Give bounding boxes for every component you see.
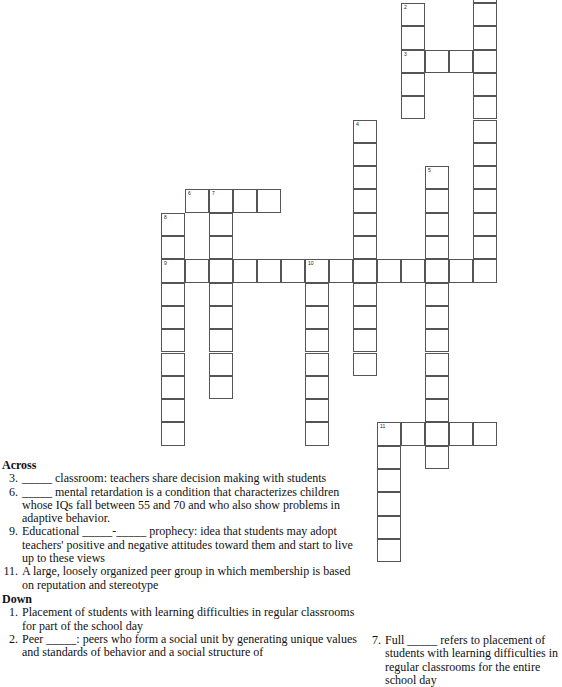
crossword-cell[interactable] (425, 376, 449, 399)
crossword-cell[interactable] (353, 166, 377, 189)
clue-text: Educational _____-_____ prophecy: idea t… (22, 525, 357, 565)
crossword-cell[interactable] (305, 353, 329, 376)
crossword-cell[interactable] (425, 259, 449, 282)
crossword-cell[interactable] (425, 189, 449, 212)
crossword-cell[interactable] (185, 259, 209, 282)
crossword-cell[interactable] (473, 26, 497, 49)
crossword-cell[interactable] (425, 422, 449, 445)
crossword-cell[interactable]: 10 (305, 259, 329, 282)
crossword-cell[interactable]: 8 (161, 213, 185, 236)
crossword-cell[interactable] (473, 259, 497, 282)
crossword-cell[interactable] (425, 236, 449, 259)
crossword-cell[interactable] (425, 213, 449, 236)
crossword-cell[interactable] (425, 306, 449, 329)
crossword-cell[interactable] (425, 50, 449, 73)
crossword-cell[interactable] (233, 189, 257, 212)
crossword-cell[interactable] (305, 283, 329, 306)
crossword-cell[interactable] (377, 446, 401, 469)
crossword-cell[interactable] (449, 422, 473, 445)
crossword-cell[interactable] (473, 236, 497, 259)
clue-number-label: 6 (188, 190, 191, 196)
crossword-cell[interactable] (401, 96, 425, 119)
across-clue-11: 11. A large, loosely organized peer grou… (2, 565, 357, 592)
crossword-cell[interactable] (161, 422, 185, 445)
crossword-cell[interactable] (161, 376, 185, 399)
crossword-cell[interactable] (473, 96, 497, 119)
crossword-cell[interactable] (161, 353, 185, 376)
crossword-cell[interactable] (425, 329, 449, 352)
crossword-cell[interactable] (377, 516, 401, 539)
crossword-cell[interactable]: 2 (401, 3, 425, 26)
crossword-cell[interactable]: 9 (161, 259, 185, 282)
crossword-cell[interactable] (377, 469, 401, 492)
crossword-cell[interactable] (425, 446, 449, 469)
crossword-cell[interactable]: 11 (377, 422, 401, 445)
crossword-cell[interactable] (257, 189, 281, 212)
crossword-cell[interactable] (209, 376, 233, 399)
crossword-cell[interactable]: 7 (209, 189, 233, 212)
crossword-cell[interactable] (161, 306, 185, 329)
crossword-cell[interactable] (401, 26, 425, 49)
crossword-cell[interactable] (305, 376, 329, 399)
crossword-cell[interactable] (257, 259, 281, 282)
crossword-cell[interactable] (473, 189, 497, 212)
crossword-cell[interactable] (353, 189, 377, 212)
crossword-cell[interactable] (473, 3, 497, 26)
clue-number-label: 11 (380, 423, 385, 429)
crossword-cell[interactable] (353, 353, 377, 376)
crossword-cell[interactable] (473, 422, 497, 445)
crossword-cell[interactable] (401, 259, 425, 282)
crossword-cell[interactable]: 4 (353, 120, 377, 143)
crossword-cell[interactable] (401, 422, 425, 445)
crossword-cell[interactable] (209, 306, 233, 329)
crossword-cell[interactable] (425, 353, 449, 376)
crossword-cell[interactable] (449, 259, 473, 282)
crossword-cell[interactable] (425, 283, 449, 306)
crossword-cell[interactable] (209, 353, 233, 376)
crossword-cell[interactable] (209, 259, 233, 282)
crossword-cell[interactable] (353, 329, 377, 352)
crossword-cell[interactable] (473, 143, 497, 166)
crossword-cell[interactable] (209, 236, 233, 259)
crossword-cell[interactable] (353, 283, 377, 306)
crossword-cell[interactable] (353, 213, 377, 236)
crossword-cell[interactable] (353, 236, 377, 259)
crossword-cell[interactable]: 5 (425, 166, 449, 189)
crossword-cell[interactable] (209, 283, 233, 306)
crossword-cell[interactable] (161, 283, 185, 306)
clue-number-label: 8 (164, 214, 167, 220)
crossword-cell[interactable] (377, 259, 401, 282)
crossword-cell[interactable] (473, 73, 497, 96)
crossword-cell[interactable] (473, 120, 497, 143)
clue-number: 7. (365, 634, 381, 647)
crossword-cell[interactable] (305, 329, 329, 352)
crossword-cell[interactable] (473, 213, 497, 236)
crossword-cell[interactable] (473, 166, 497, 189)
down-clue-2: 2. Peer _____: peers who form a social u… (2, 633, 357, 660)
crossword-cell[interactable] (377, 492, 401, 515)
crossword-cell[interactable] (329, 259, 353, 282)
crossword-cell[interactable] (209, 213, 233, 236)
crossword-cell[interactable] (353, 306, 377, 329)
crossword-cell[interactable] (233, 259, 257, 282)
clue-text: A large, loosely organized peer group in… (22, 565, 357, 592)
crossword-cell[interactable] (353, 143, 377, 166)
crossword-cell[interactable] (161, 236, 185, 259)
crossword-cell[interactable] (449, 50, 473, 73)
crossword-cell[interactable] (161, 329, 185, 352)
crossword-cell[interactable] (161, 399, 185, 422)
crossword-cell[interactable] (305, 399, 329, 422)
crossword-cell[interactable] (305, 422, 329, 445)
crossword-cell[interactable]: 3 (401, 50, 425, 73)
crossword-cell[interactable] (353, 259, 377, 282)
crossword-cell[interactable] (401, 73, 425, 96)
crossword-cell[interactable]: 6 (185, 189, 209, 212)
crossword-cell[interactable] (281, 259, 305, 282)
crossword-cell[interactable] (425, 399, 449, 422)
crossword-cell[interactable] (473, 50, 497, 73)
clue-number-label: 5 (428, 167, 431, 173)
crossword-cell[interactable] (377, 539, 401, 562)
crossword-cell[interactable] (305, 306, 329, 329)
down-clue-1: 1. Placement of students with learning d… (2, 606, 357, 633)
crossword-cell[interactable] (209, 329, 233, 352)
